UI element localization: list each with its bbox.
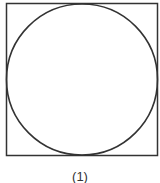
figure-caption: (1) <box>0 170 160 183</box>
inscribed-circle <box>7 4 158 155</box>
figure-diagram <box>0 0 160 183</box>
